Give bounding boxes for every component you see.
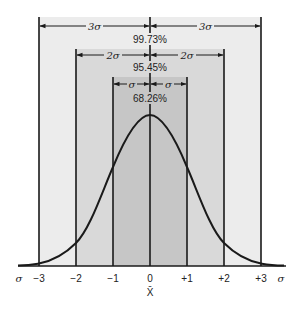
axis-unit-left: σ bbox=[16, 273, 24, 284]
label-3sigma-right: 3σ bbox=[199, 21, 213, 32]
label-2sigma-right: 2σ bbox=[179, 50, 194, 61]
axis-unit-right: σ bbox=[278, 273, 286, 284]
label-3sigma-left: 3σ bbox=[88, 21, 102, 32]
tick-plus-3: +3 bbox=[255, 273, 267, 284]
tick-minus-2: −2 bbox=[70, 273, 82, 284]
label-2sigma-left: 2σ bbox=[105, 50, 120, 61]
normal-distribution-diagram: 3σ 3σ 2σ 2σ σ σ 99.73% 95.45% 68.26% σ −… bbox=[0, 0, 304, 310]
tick-plus-2: +2 bbox=[218, 273, 230, 284]
percent-68-26: 68.26% bbox=[133, 93, 167, 104]
tick-plus-1: +1 bbox=[181, 273, 193, 284]
mean-label: X̄ bbox=[147, 286, 154, 298]
tick-minus-1: −1 bbox=[107, 273, 119, 284]
percent-95-45: 95.45% bbox=[133, 62, 167, 73]
label-1sigma-right: σ bbox=[165, 79, 173, 90]
tick-zero: 0 bbox=[147, 273, 153, 284]
percent-99-73: 99.73% bbox=[133, 34, 167, 45]
label-1sigma-left: σ bbox=[129, 79, 137, 90]
tick-minus-3: −3 bbox=[33, 273, 45, 284]
